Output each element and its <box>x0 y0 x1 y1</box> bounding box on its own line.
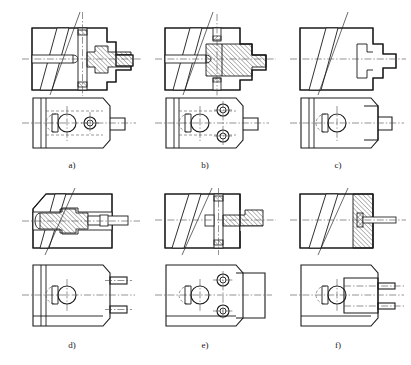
panel-d-label: d) <box>68 340 76 350</box>
panel-f-label: f) <box>335 340 341 350</box>
figure-svg: .ol{fill:none;stroke:#1a1a1a;stroke-widt… <box>0 0 411 365</box>
panel-e-label: e) <box>202 340 209 350</box>
panel-a-label: a) <box>69 160 76 170</box>
panel-b-label: b) <box>201 160 209 170</box>
panel-c-label: c) <box>335 160 342 170</box>
engineering-figure: .ol{fill:none;stroke:#1a1a1a;stroke-widt… <box>0 0 411 365</box>
